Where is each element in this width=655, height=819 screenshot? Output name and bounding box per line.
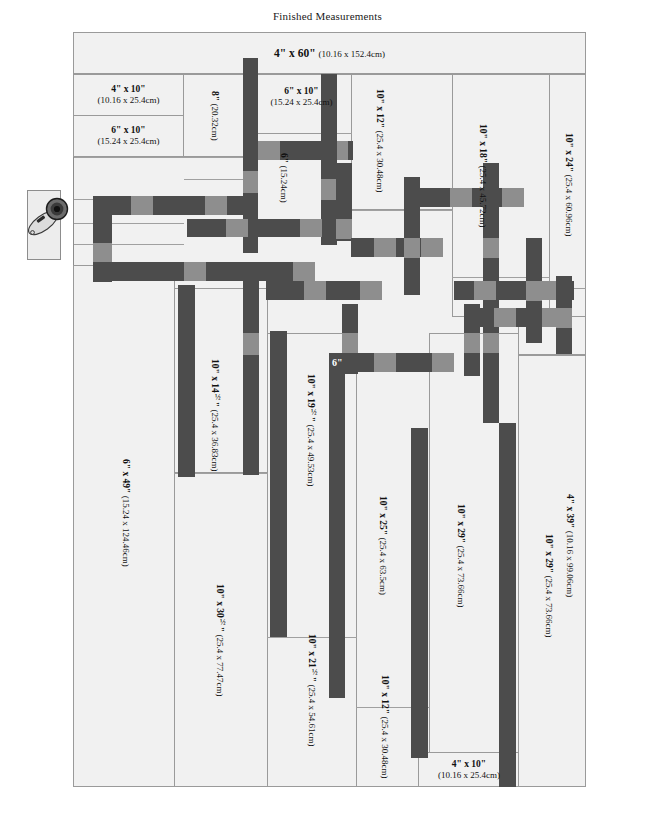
piece-4x10-topleft [73, 74, 184, 116]
piece-8in-column [183, 74, 251, 157]
piece-10x30half-column [174, 472, 268, 787]
page-title: Finished Measurements [0, 10, 655, 22]
piece-4x60 [73, 32, 586, 74]
cutting-layout-diagram: 4" x 60" (10.16 x 152.4cm) 4" x 10" (10.… [73, 32, 584, 785]
piece-6x10-topleft [73, 115, 184, 157]
piece-6x49-column [73, 265, 175, 787]
rotary-cutter-icon [24, 188, 72, 264]
piece-10x29-column-b [518, 355, 586, 787]
